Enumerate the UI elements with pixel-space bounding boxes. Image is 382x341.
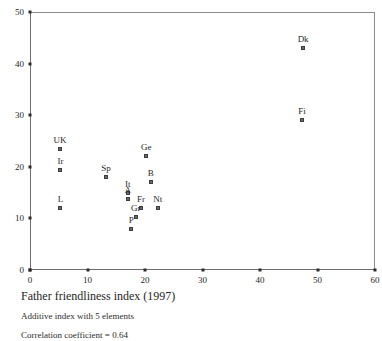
data-point-label: Fi: [298, 107, 306, 116]
caption-title: Father friendliness index (1997): [21, 289, 175, 303]
x-axis-tick: [374, 269, 377, 272]
data-point-label: Sp: [101, 164, 111, 173]
data-point: [129, 227, 133, 231]
data-point-label: P: [129, 216, 134, 225]
y-axis-tick: [29, 114, 32, 117]
x-axis-tick: [259, 269, 262, 272]
data-point-label: B: [148, 169, 154, 178]
caption-correlation: Correlation coefficient = 0.64: [21, 330, 128, 341]
x-axis-tick-label: 0: [28, 276, 33, 285]
data-point: [134, 215, 138, 219]
x-axis-tick-label: 50: [313, 276, 322, 285]
y-axis-tick-label: 30: [15, 111, 24, 120]
data-point-label: UK: [53, 136, 66, 145]
data-point: [144, 154, 148, 158]
y-axis-tick: [29, 62, 32, 65]
data-point-label: Gr: [131, 204, 141, 213]
data-point-label: Ge: [141, 143, 152, 152]
data-point-label: Ir: [57, 157, 63, 166]
data-point-label: L: [58, 195, 64, 204]
y-axis-tick-label: 10: [15, 214, 24, 223]
scatter-chart: 010203040506001020304050DkFiUKGeIrSpBItA…: [0, 0, 382, 282]
data-point-label: A: [125, 186, 132, 195]
x-axis-tick-label: 60: [371, 276, 380, 285]
data-point: [149, 180, 153, 184]
data-point: [58, 168, 62, 172]
x-axis-tick: [144, 269, 147, 272]
data-point-label: Nt: [153, 195, 162, 204]
caption-subtitle: Additive index with 5 elements: [21, 311, 134, 322]
y-axis-tick: [29, 217, 32, 220]
x-axis-tick: [316, 269, 319, 272]
plot-area: [30, 12, 375, 270]
x-axis-tick-label: 10: [83, 276, 92, 285]
y-axis-tick-label: 50: [15, 8, 24, 17]
y-axis-tick: [29, 165, 32, 168]
y-axis-tick: [29, 269, 32, 272]
y-axis-tick-label: 20: [15, 162, 24, 171]
data-point: [58, 206, 62, 210]
data-point: [301, 46, 305, 50]
y-axis-tick-label: 40: [15, 59, 24, 68]
data-point: [126, 197, 130, 201]
data-point: [300, 118, 304, 122]
data-point-label: Dk: [298, 35, 309, 44]
x-axis-tick-label: 20: [141, 276, 150, 285]
data-point: [156, 206, 160, 210]
x-axis-tick-label: 40: [256, 276, 265, 285]
data-point: [58, 147, 62, 151]
y-axis-tick: [29, 11, 32, 14]
x-axis-tick: [86, 269, 89, 272]
x-axis-tick-label: 30: [198, 276, 207, 285]
x-axis-tick: [201, 269, 204, 272]
y-axis-tick-label: 0: [20, 266, 25, 275]
data-point: [104, 175, 108, 179]
